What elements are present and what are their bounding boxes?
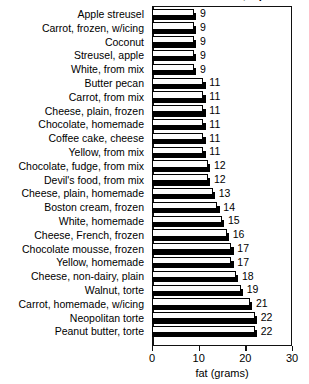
bar	[152, 22, 194, 29]
bar-value-label: 13	[219, 187, 231, 201]
bar-row: 19	[152, 284, 292, 298]
bar	[152, 243, 231, 250]
bar-row: 11	[152, 105, 292, 119]
bar-value-label: 14	[223, 201, 235, 215]
x-axis-tick	[152, 346, 153, 351]
bar-value-label: 9	[200, 21, 206, 35]
chart-title: Sweets: CAKES, 1 piece	[152, 0, 293, 1]
bar	[152, 105, 203, 112]
bar	[152, 174, 208, 181]
category-axis-labels: Apple streuselCarrot, frozen, w/icingCoc…	[0, 8, 148, 339]
bar-row: 22	[152, 325, 292, 339]
category-label: Boston cream, frozen	[0, 201, 148, 215]
bar-value-label: 9	[200, 7, 206, 21]
bar	[152, 91, 203, 98]
bar	[152, 64, 194, 71]
bar-value-label: 17	[237, 256, 249, 270]
bar	[152, 229, 227, 236]
bar-value-label: 18	[242, 270, 254, 284]
bar-row: 9	[152, 8, 292, 22]
category-label: Carrot, from mix	[0, 91, 148, 105]
bar	[152, 78, 203, 85]
category-label: Butter pecan	[0, 77, 148, 91]
bar-row: 11	[152, 146, 292, 160]
bar	[152, 312, 255, 319]
x-axis-tick	[245, 346, 246, 351]
bar	[152, 326, 255, 333]
bar-row: 17	[152, 256, 292, 270]
bars-area: 9999911111111111112121314151617171819212…	[152, 8, 292, 340]
bar-row: 13	[152, 187, 292, 201]
category-label: Devil's food, from mix	[0, 174, 148, 188]
bar-value-label: 12	[214, 173, 226, 187]
x-axis-tick-label: 0	[137, 352, 167, 364]
bar-row: 11	[152, 91, 292, 105]
bar	[152, 298, 250, 305]
bar	[152, 257, 231, 264]
bar-value-label: 22	[261, 325, 273, 339]
bar-row: 9	[152, 49, 292, 63]
bar-row: 14	[152, 201, 292, 215]
bar-value-label: 21	[256, 297, 268, 311]
bar-value-label: 19	[247, 283, 259, 297]
bar-row: 12	[152, 174, 292, 188]
x-axis-tick	[199, 346, 200, 351]
category-label: Cheese, plain, homemade	[0, 187, 148, 201]
x-axis-tick-label: 10	[184, 352, 214, 364]
bar-value-label: 9	[200, 63, 206, 77]
category-label: Chocolate, fudge, from mix	[0, 160, 148, 174]
category-label: Walnut, torte	[0, 284, 148, 298]
category-label: White, homemade	[0, 215, 148, 229]
bar	[152, 50, 194, 57]
bar-row: 11	[152, 77, 292, 91]
category-label: Coffee cake, cheese	[0, 132, 148, 146]
bar-row: 17	[152, 243, 292, 257]
bar	[152, 133, 203, 140]
x-axis-tick-label: 30	[277, 352, 307, 364]
bar-row: 16	[152, 229, 292, 243]
x-axis-tick-label: 20	[230, 352, 260, 364]
bar-row: 9	[152, 36, 292, 50]
bar-value-label: 11	[209, 132, 220, 146]
category-label: Yellow, from mix	[0, 146, 148, 160]
bar-value-label: 11	[209, 104, 220, 118]
x-axis-title: fat (grams)	[152, 367, 292, 379]
bar-value-label: 22	[261, 311, 273, 325]
bar	[152, 147, 203, 154]
category-label: Neopolitan torte	[0, 312, 148, 326]
bar	[152, 202, 217, 209]
category-label: Coconut	[0, 36, 148, 50]
bar-row: 18	[152, 270, 292, 284]
category-label: Streusel, apple	[0, 49, 148, 63]
bar-value-label: 9	[200, 35, 206, 49]
bar-value-label: 11	[209, 118, 220, 132]
bar	[152, 216, 222, 223]
bar-value-label: 17	[237, 242, 249, 256]
bar-row: 22	[152, 312, 292, 326]
bar	[152, 188, 213, 195]
category-label: Peanut butter, torte	[0, 325, 148, 339]
bar-row: 9	[152, 22, 292, 36]
bar	[152, 9, 194, 16]
bar-value-label: 15	[228, 214, 240, 228]
category-label: Cheese, non-dairy, plain	[0, 270, 148, 284]
bar	[152, 271, 236, 278]
category-label: Cheese, French, frozen	[0, 229, 148, 243]
x-axis-tick	[292, 346, 293, 351]
category-label: Yellow, homemade	[0, 256, 148, 270]
bar-value-label: 11	[209, 90, 220, 104]
bar-value-label: 11	[209, 145, 220, 159]
bar-value-label: 16	[233, 228, 245, 242]
bar-value-label: 12	[214, 159, 226, 173]
category-label: Carrot, frozen, w/icing	[0, 22, 148, 36]
bar-row: 21	[152, 298, 292, 312]
bar-row: 11	[152, 118, 292, 132]
bar-chart-figure: Sweets: CAKES, 1 piece Apple streuselCar…	[0, 0, 309, 384]
bar	[152, 285, 241, 292]
bar-row: 11	[152, 132, 292, 146]
bar	[152, 119, 203, 126]
category-label: Chocolate, homemade	[0, 118, 148, 132]
bar-row: 15	[152, 215, 292, 229]
bar	[152, 36, 194, 43]
bar-row: 9	[152, 63, 292, 77]
